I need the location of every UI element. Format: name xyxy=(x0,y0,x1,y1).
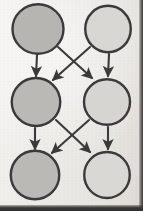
edge-mid-right-to-bottom-left xyxy=(52,120,89,153)
node-graph xyxy=(0,0,143,211)
node-bottom-right[interactable] xyxy=(84,152,130,198)
node-top-right[interactable] xyxy=(85,6,131,52)
edge-top-left-to-mid-left xyxy=(36,55,37,76)
node-mid-left[interactable] xyxy=(12,78,60,126)
diagram-canvas xyxy=(0,0,143,211)
edge-top-left-to-mid-right xyxy=(58,47,92,78)
edge-top-right-to-mid-left xyxy=(53,47,90,80)
edge-top-right-to-mid-right xyxy=(108,54,109,76)
node-mid-right[interactable] xyxy=(84,79,130,125)
node-top-left[interactable] xyxy=(13,4,64,54)
nodes-layer xyxy=(11,4,131,199)
node-bottom-left[interactable] xyxy=(11,151,59,199)
